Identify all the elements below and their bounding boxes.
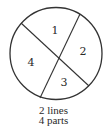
region-label-2: 2: [80, 45, 87, 58]
region-label-1: 1: [52, 24, 59, 37]
region-label-4: 4: [28, 56, 35, 69]
region-label-3: 3: [61, 76, 68, 89]
caption-parts-count: 4 parts: [0, 115, 107, 125]
